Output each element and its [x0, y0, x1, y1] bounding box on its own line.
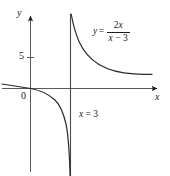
numerator-variable: x [118, 20, 122, 30]
equation-denominator: x − 3 [107, 33, 130, 44]
curve-equation-label: y = 2x x − 3 [93, 21, 130, 43]
graph-canvas [0, 0, 170, 176]
equation-equals-sign: = [99, 27, 104, 37]
y-tick-label-5: 5 [19, 51, 24, 61]
origin-label: 0 [21, 91, 26, 101]
asymptote-equals: = [83, 109, 93, 119]
x-axis-label: x [155, 92, 159, 102]
rational-function-figure: y x 5 0 x = 3 y = 2x x − 3 [0, 0, 170, 176]
y-axis-label: y [17, 8, 21, 18]
denominator-operator: − [113, 33, 123, 43]
equation-numerator: 2x [112, 21, 125, 32]
denominator-constant: 3 [123, 33, 128, 43]
asymptote-value: 3 [93, 109, 98, 119]
equation-fraction: 2x x − 3 [107, 21, 130, 43]
equation-lhs: y [93, 27, 97, 37]
asymptote-label: x = 3 [79, 110, 98, 120]
curve-left-branch [2, 84, 70, 176]
